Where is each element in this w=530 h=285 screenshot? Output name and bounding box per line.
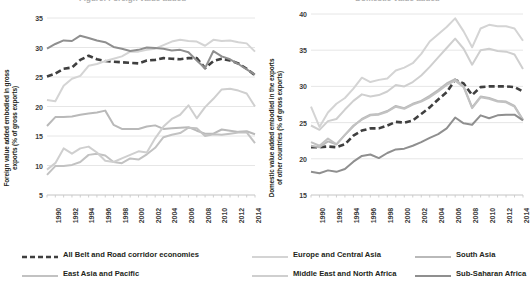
legend-label: Europe and Central Asia <box>293 250 381 259</box>
y-axis-tick-labels-left: 5101520253035 <box>23 18 43 195</box>
x-axis-tick-label: 2010 <box>488 208 495 224</box>
y-axis-tick-label: 5 <box>39 192 43 199</box>
legend-label: East Asia and Pacific <box>63 269 139 278</box>
x-axis-tick-label: 2012 <box>238 208 245 224</box>
series-line <box>47 128 255 175</box>
x-axis-tick-labels-left: 1990199219941996199820002002200420062008… <box>0 200 265 242</box>
x-axis-tick-label: 1998 <box>387 208 394 224</box>
x-axis-tick-label: 2006 <box>188 208 195 224</box>
x-axis-tick-label: 1990 <box>55 208 62 224</box>
plot-area-right <box>311 14 523 195</box>
legend-item[interactable]: East Asia and Pacific <box>22 264 139 282</box>
legend-label: South Asia <box>456 250 495 259</box>
legend-row-2: East Asia and PacificMiddle East and Nor… <box>0 264 530 282</box>
y-axis-tick-label: 15 <box>299 192 307 199</box>
y-axis-tick-label: 25 <box>299 119 307 126</box>
x-axis-tick-label: 2002 <box>155 208 162 224</box>
legend-row-1: All Belt and Road corridor economiesEuro… <box>0 245 530 263</box>
x-axis-tick-label: 2010 <box>221 208 228 224</box>
x-axis-tick-label: 2008 <box>205 208 212 224</box>
legend-label: Middle East and North Africa <box>293 269 397 278</box>
x-axis-tick-label: 1992 <box>336 208 343 224</box>
x-axis-tick-label: 1998 <box>121 208 128 224</box>
series-line <box>47 40 255 101</box>
x-axis-tick-label: 2014 <box>254 208 261 224</box>
x-axis-tick-label: 2004 <box>438 208 445 224</box>
legend-item[interactable]: Middle East and North Africa <box>252 264 397 282</box>
x-axis-tick-label: 2000 <box>138 208 145 224</box>
legend-item[interactable]: Sub-Saharan Africa <box>415 264 526 282</box>
chart-legend: All Belt and Road corridor economiesEuro… <box>0 243 530 285</box>
y-axis-tick-label: 40 <box>299 11 307 18</box>
x-axis-tick-label: 2000 <box>404 208 411 224</box>
line-chart-left <box>47 18 255 195</box>
y-axis-tick-label: 30 <box>35 44 43 51</box>
y-axis-tick-labels-right: 152025303540 <box>287 14 307 195</box>
x-axis-tick-labels-right: 1990199219941996199820002002200420062008… <box>265 200 530 242</box>
x-axis-tick-label: 1996 <box>370 208 377 224</box>
legend-item[interactable]: Europe and Central Asia <box>252 245 381 263</box>
y-axis-tick-label: 10 <box>35 162 43 169</box>
figure-root: Figure: Foreign value added Domestic val… <box>0 0 530 285</box>
x-axis-tick-label: 1994 <box>88 208 95 224</box>
x-axis-tick-label: 2008 <box>471 208 478 224</box>
y-axis-tick-label: 30 <box>299 83 307 90</box>
y-axis-tick-label: 15 <box>35 133 43 140</box>
x-axis-tick-label: 2012 <box>505 208 512 224</box>
line-chart-right <box>311 14 523 195</box>
legend-label: All Belt and Road corridor economies <box>63 250 199 259</box>
y-axis-tick-label: 35 <box>299 47 307 54</box>
x-axis-tick-label: 2004 <box>171 208 178 224</box>
y-axis-tick-label: 20 <box>299 155 307 162</box>
legend-item[interactable]: All Belt and Road corridor economies <box>22 245 199 263</box>
x-axis-tick-label: 2006 <box>454 208 461 224</box>
x-axis-tick-label: 1990 <box>319 208 326 224</box>
series-line <box>47 56 255 77</box>
plot-area-left <box>47 18 255 195</box>
legend-label: Sub-Saharan Africa <box>456 269 526 278</box>
x-axis-tick-label: 2014 <box>522 208 529 224</box>
x-axis-tick-label: 2002 <box>421 208 428 224</box>
legend-item[interactable]: South Asia <box>415 245 495 263</box>
x-axis-tick-label: 1996 <box>105 208 112 224</box>
y-axis-tick-label: 25 <box>35 74 43 81</box>
y-axis-tick-label: 35 <box>35 15 43 22</box>
x-axis-tick-label: 1992 <box>71 208 78 224</box>
chart-panel-left: Foreign value added embodied in gross ex… <box>0 0 265 240</box>
x-axis-tick-label: 1994 <box>353 208 360 224</box>
chart-panel-right: Domestic value added embodied in the exp… <box>265 0 530 240</box>
y-axis-tick-label: 20 <box>35 103 43 110</box>
series-line <box>47 111 255 135</box>
